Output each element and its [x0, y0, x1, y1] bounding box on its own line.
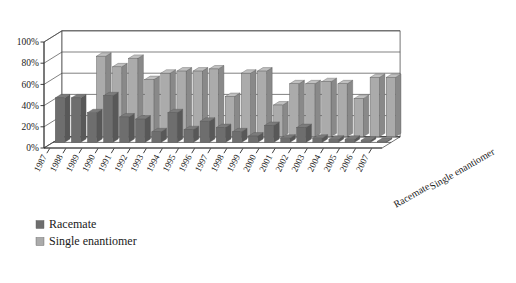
bar-front-face: [297, 128, 306, 143]
bar-front-face: [216, 128, 225, 143]
x-tick-label-2000: 2000: [241, 152, 258, 173]
bar-side-face: [315, 80, 321, 136]
bar-front-face: [232, 132, 241, 143]
bar-side-face: [97, 109, 103, 142]
bar-racemate-1988: [71, 94, 86, 142]
depth-label-single-enantiomer: Single enantiomer: [428, 145, 497, 191]
bar-front-face: [87, 113, 96, 143]
x-tick-label-1989: 1989: [64, 152, 81, 173]
x-tick: [353, 149, 356, 154]
bar-front-face: [361, 140, 370, 142]
bar-front-face: [377, 141, 386, 142]
bar-front-face: [322, 82, 331, 137]
x-tick: [192, 149, 195, 154]
x-tick: [95, 149, 98, 154]
bar-racemate-1998: [232, 128, 247, 142]
bar-side-face: [145, 116, 151, 143]
bar-racemate-1990: [104, 92, 119, 142]
x-tick-label-1990: 1990: [80, 152, 97, 173]
x-tick-label-2004: 2004: [305, 152, 322, 173]
bar-racemate-1989: [87, 109, 102, 142]
bar-single-enantiomer-2003: [322, 78, 337, 137]
x-tick-label-1991: 1991: [96, 153, 113, 174]
bar-racemate-1995: [184, 126, 199, 142]
x-tick: [127, 149, 130, 154]
y-tick-label: 40%: [22, 101, 40, 111]
y-tick-label: 0%: [26, 143, 39, 153]
x-tick-label-1996: 1996: [177, 152, 194, 173]
bar-side-face: [177, 109, 183, 142]
bar-front-face: [152, 132, 161, 143]
x-tick: [256, 149, 259, 154]
bar-side-face: [113, 92, 119, 142]
x-tick: [111, 149, 114, 154]
legend-swatch-1: [36, 238, 44, 246]
bar-front-face: [329, 139, 338, 142]
bar-racemate-1992: [136, 116, 151, 143]
three-d-bar-chart: 0%20%40%60%80%100%1987198819891990199119…: [0, 0, 516, 283]
bar-racemate-1994: [168, 109, 183, 142]
bar-front-face: [200, 121, 209, 142]
bar-racemate-2002: [297, 124, 312, 142]
bar-front-face: [281, 138, 290, 142]
bar-side-face: [379, 74, 385, 137]
x-tick: [208, 149, 211, 154]
bar-side-face: [129, 113, 135, 142]
bar-front-face: [354, 99, 363, 137]
x-tick-label-1992: 1992: [112, 153, 129, 174]
x-tick-label-2003: 2003: [289, 152, 306, 173]
bar-side-face: [347, 80, 353, 136]
x-tick: [272, 149, 275, 154]
x-tick-label-2002: 2002: [273, 153, 290, 174]
bar-front-face: [104, 96, 113, 143]
legend-label-1: Single enantiomer: [49, 234, 137, 248]
x-tick-label-2006: 2006: [338, 152, 355, 173]
x-tick: [337, 149, 340, 154]
x-tick: [143, 149, 146, 154]
x-tick-label-1999: 1999: [225, 152, 242, 173]
x-tick-label-2005: 2005: [322, 152, 339, 173]
bar-front-face: [168, 113, 177, 143]
x-tick: [160, 149, 163, 154]
bar-front-face: [386, 77, 395, 136]
x-tick-label-1987: 1987: [32, 152, 49, 173]
bar-racemate-1997: [216, 124, 231, 142]
bar-side-face: [81, 94, 87, 142]
bar-front-face: [338, 84, 347, 137]
bar-racemate-1996: [200, 118, 215, 143]
bar-front-face: [241, 73, 250, 137]
y-tick-label: 20%: [22, 122, 40, 132]
bar-side-face: [251, 70, 257, 137]
bar-front-face: [313, 138, 322, 142]
bar-racemate-1993: [152, 128, 167, 142]
bar-single-enantiomer-2005: [354, 95, 369, 137]
bar-single-enantiomer-1998: [241, 70, 256, 137]
bar-side-face: [154, 76, 160, 137]
legend-label-0: Racemate: [49, 217, 96, 231]
x-tick-label-1993: 1993: [128, 152, 145, 173]
x-tick-label-1994: 1994: [144, 152, 161, 173]
bar-front-face: [55, 98, 64, 143]
bar-front-face: [370, 77, 379, 136]
bar-single-enantiomer-2007: [386, 74, 401, 137]
legend-swatch-0: [36, 221, 44, 229]
x-tick: [63, 149, 66, 154]
x-tick: [369, 149, 372, 154]
bar-front-face: [71, 98, 80, 143]
bar-side-face: [64, 94, 70, 142]
bar-racemate-2000: [265, 122, 280, 142]
bar-front-face: [248, 136, 257, 142]
depth-label-racemate: Racemate: [392, 180, 432, 210]
x-tick: [240, 149, 243, 154]
bar-side-face: [283, 102, 289, 137]
bar-single-enantiomer-2004: [338, 80, 353, 136]
x-tick: [47, 149, 50, 154]
bar-front-face: [120, 117, 129, 142]
bar-front-face: [136, 119, 145, 142]
x-tick-label-2007: 2007: [354, 152, 371, 173]
bar-racemate-1991: [120, 113, 135, 142]
bar-side-face: [331, 78, 337, 137]
bar-side-face: [363, 95, 369, 137]
bar-front-face: [265, 125, 274, 142]
x-tick-label-1997: 1997: [193, 152, 210, 173]
